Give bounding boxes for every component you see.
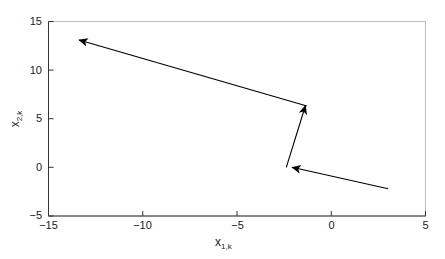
axes-frame: [49, 22, 426, 217]
y-tick-marks: [49, 22, 54, 217]
y-axis-title-subscript: 2,k: [15, 111, 24, 122]
arrow-segment-1: [292, 167, 388, 188]
x-axis-title: x1,k: [215, 236, 232, 248]
x-tick-marks: [49, 211, 426, 216]
y-tick-label-15: 15: [12, 16, 42, 27]
arrow-segment-3: [79, 40, 307, 106]
arrow-segment-2: [286, 106, 305, 168]
y-axis-title-main: x: [8, 121, 22, 127]
x-tick-label-minus5: −5: [217, 220, 258, 231]
x-axis-title-subscript: 1,k: [221, 242, 232, 251]
x-tick-label-minus15: −15: [28, 220, 69, 231]
data-arrows: [79, 40, 388, 189]
y-axis-title: x2,k: [9, 97, 21, 141]
y-tick-label-0: 0: [12, 162, 42, 173]
x-tick-label-minus10: −10: [122, 220, 163, 231]
y-tick-label-10: 10: [12, 65, 42, 76]
x-tick-label-5: 5: [405, 220, 445, 231]
chart-figure: 15 10 5 0 −5 −15 −10 −5 0 5 x1,k x2,k: [0, 0, 445, 259]
x-tick-label-0: 0: [311, 220, 352, 231]
